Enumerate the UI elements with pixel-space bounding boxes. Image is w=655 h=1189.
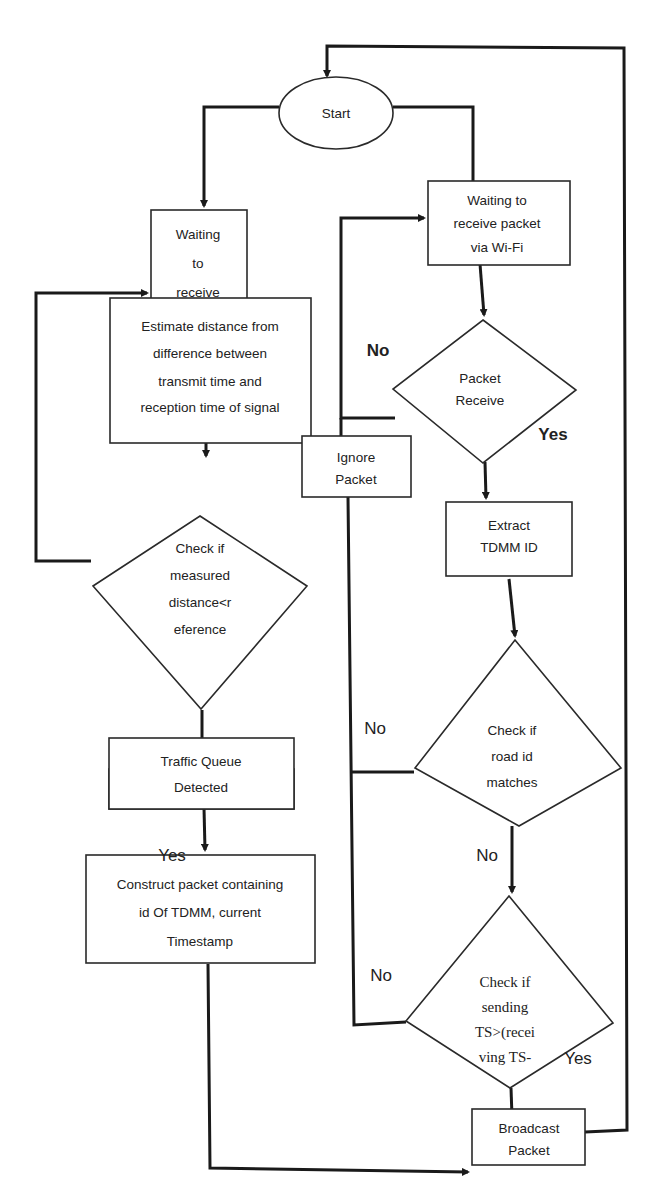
connector-queue-to-construct (204, 808, 205, 850)
svg-text:TS>(recei: TS>(recei (475, 1024, 535, 1041)
svg-text:Traffic Queue: Traffic Queue (160, 754, 241, 769)
svg-text:ving TS-: ving TS- (479, 1049, 532, 1065)
svg-text:Check if: Check if (479, 974, 530, 990)
svg-text:eference: eference (174, 622, 227, 637)
node-check-road: Check if road id matches (415, 640, 621, 826)
node-check-distance: Check if measured distance<r eference (93, 516, 307, 709)
svg-text:id Of TDMM, current: id Of TDMM, current (139, 905, 261, 920)
label-road-no-left: No (364, 719, 386, 738)
svg-text:TDMM ID: TDMM ID (480, 540, 538, 555)
connector-ignore-down (348, 497, 406, 1025)
node-broadcast: Broadcast Packet (472, 1109, 585, 1165)
node-estimate: Estimate distance from difference betwee… (110, 298, 311, 443)
svg-text:reception time of signal: reception time of signal (141, 400, 280, 415)
svg-text:Ignore: Ignore (337, 450, 375, 465)
svg-text:transmit time and: transmit time and (158, 374, 262, 389)
node-extract: Extract TDMM ID (446, 502, 572, 576)
svg-text:receive packet: receive packet (453, 216, 540, 231)
svg-text:Packet: Packet (508, 1143, 550, 1158)
node-start-text: Start (322, 106, 351, 121)
svg-text:Estimate distance from: Estimate distance from (141, 319, 278, 334)
svg-text:difference between: difference between (153, 346, 267, 361)
svg-text:to: to (192, 256, 203, 271)
svg-text:Construct packet containing: Construct packet containing (117, 877, 284, 892)
node-construct: Construct packet containing id Of TDMM, … (86, 855, 315, 963)
svg-text:distance<r: distance<r (169, 595, 232, 610)
svg-text:Waiting: Waiting (176, 227, 221, 242)
svg-text:Timestamp: Timestamp (167, 934, 233, 949)
svg-text:Waiting to: Waiting to (467, 193, 527, 208)
svg-text:measured: measured (170, 568, 230, 583)
node-queue-detected-box: Traffic Queue Detected (109, 738, 294, 809)
svg-text:Packet: Packet (335, 472, 377, 487)
label-ts-no: No (370, 966, 392, 985)
label-ts-yes: Yes (564, 1049, 592, 1068)
svg-text:Check if: Check if (176, 541, 225, 556)
svg-text:matches: matches (486, 775, 537, 790)
svg-text:Detected: Detected (174, 780, 228, 795)
node-start: Start (279, 77, 393, 149)
label-packet-yes: Yes (538, 425, 567, 444)
svg-text:Check if: Check if (488, 723, 537, 738)
svg-text:sending: sending (482, 999, 529, 1015)
node-wait-wifi: Waiting to receive packet via Wi-Fi (428, 181, 570, 265)
svg-text:road id: road id (491, 749, 532, 764)
connector-wifi-to-packet-receive (480, 264, 484, 315)
connector-packet-yes-to-extract (485, 462, 486, 498)
label-queue-yes: Yes (158, 846, 186, 865)
svg-text:Extract: Extract (488, 518, 530, 533)
connector-start-to-wait-receive (204, 107, 279, 206)
label-road-no-down: No (476, 846, 498, 865)
flowchart-canvas: Start Waiting to receive Estimate distan… (0, 0, 655, 1189)
svg-text:Broadcast: Broadcast (499, 1121, 560, 1136)
svg-text:Receive: Receive (456, 393, 505, 408)
node-ignore: Ignore Packet (302, 436, 411, 497)
label-packet-no: No (367, 341, 390, 360)
svg-text:Packet: Packet (459, 371, 501, 386)
svg-text:via Wi-Fi: via Wi-Fi (471, 240, 524, 255)
connector-extract-to-check-road (509, 579, 515, 636)
